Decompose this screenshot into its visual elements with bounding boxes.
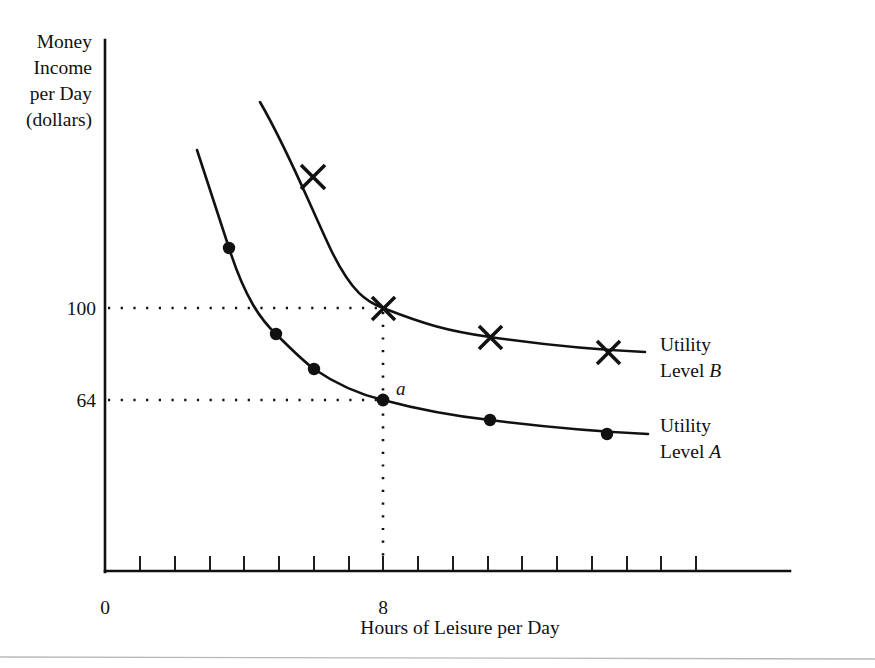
series-a-label-italic: A [707, 441, 721, 462]
y-tick-label-100: 100 [67, 298, 96, 319]
marker-a-5[interactable] [484, 414, 496, 426]
point-a-label: a [396, 378, 406, 399]
series-a-label-line-1: Utility [660, 415, 711, 436]
y-tick-labels: 100 64 [67, 298, 97, 411]
curve-b-path[interactable] [260, 102, 645, 352]
series-a-label-line-2: Level A [660, 441, 721, 462]
marker-a-point-a[interactable] [377, 394, 390, 407]
chart-canvas: Money Income per Day (dollars) 100 64 0 … [0, 0, 875, 668]
y-axis-title-line-1: Money [37, 31, 92, 52]
series-b-label-line-2: Level B [660, 360, 721, 381]
series-a-label-word: Level [660, 441, 705, 462]
y-axis-title-line-4: (dollars) [26, 109, 92, 131]
x-tick-marks [105, 556, 696, 571]
x-axis-title: Hours of Leisure per Day [360, 617, 560, 638]
series-utility-level-a[interactable] [197, 150, 648, 440]
series-b-label-italic: B [709, 360, 721, 381]
y-tick-label-64: 64 [77, 390, 97, 411]
y-axis-title-line-3: per Day [30, 83, 93, 104]
bottom-separator-rule [0, 657, 875, 659]
x-tick-label-8: 8 [378, 597, 388, 618]
series-utility-level-b[interactable] [260, 102, 645, 364]
series-b-label-word: Level [660, 360, 705, 381]
marker-a-6[interactable] [601, 428, 613, 440]
y-axis-title-line-2: Income [34, 57, 92, 78]
series-b-label: Utility Level B [660, 334, 721, 381]
marker-a-1[interactable] [223, 242, 235, 254]
axes-group [105, 40, 790, 572]
x-tick-labels: 0 8 [100, 597, 388, 618]
y-axis-title: Money Income per Day (dollars) [26, 31, 92, 131]
curve-a-path[interactable] [197, 150, 648, 434]
marker-b-4[interactable] [597, 341, 620, 364]
figure-root: Money Income per Day (dollars) 100 64 0 … [0, 0, 875, 668]
marker-a-3[interactable] [308, 363, 320, 375]
reference-guides [108, 308, 384, 566]
x-origin-label: 0 [100, 597, 110, 618]
series-b-label-line-1: Utility [660, 334, 711, 355]
marker-a-2[interactable] [270, 328, 282, 340]
marker-b-1[interactable] [301, 165, 325, 189]
series-a-label: Utility Level A [660, 415, 721, 462]
